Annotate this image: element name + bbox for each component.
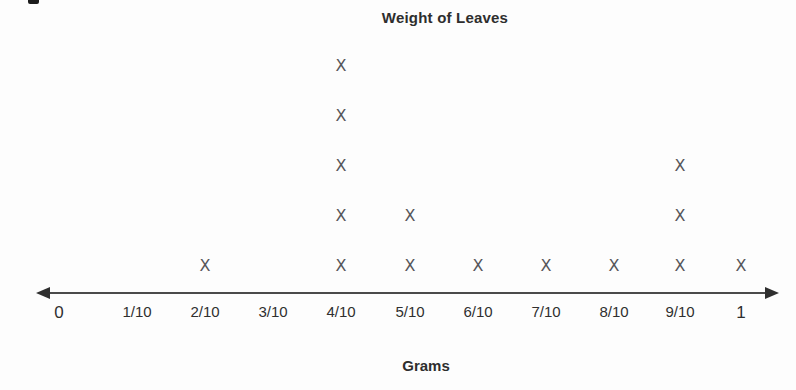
tick-label-9-10: 9/10 [665, 303, 694, 320]
tick-label-7-10: 7/10 [531, 303, 560, 320]
tick-label-3-10: 3/10 [258, 303, 287, 320]
data-marker-x-4-10-2: X [336, 208, 347, 224]
data-marker-x-7-10-1: X [541, 258, 552, 274]
tick-label-1: 1 [736, 303, 745, 323]
tick-label-0: 0 [54, 303, 63, 323]
data-marker-x-4-10-4: X [336, 108, 347, 124]
data-marker-x-4-10-5: X [336, 58, 347, 74]
data-marker-x-6-10-1: X [473, 258, 484, 274]
data-marker-x-4-10-3: X [336, 158, 347, 174]
data-marker-x-2-10-1: X [200, 258, 211, 274]
tick-label-1-10: 1/10 [122, 303, 151, 320]
scan-artifact-mark [28, 0, 39, 4]
data-marker-x-9-10-1: X [675, 258, 686, 274]
data-marker-x-8-10-1: X [609, 258, 620, 274]
tick-label-2-10: 2/10 [190, 303, 219, 320]
dot-plot-figure: Weight of Leaves 01/102/10X3/104/10XXXXX… [0, 0, 796, 390]
axis-right-arrow-icon [765, 287, 779, 299]
axis-left-arrow-icon [36, 287, 50, 299]
x-axis-label: Grams [402, 357, 450, 374]
data-marker-x-5-10-2: X [405, 208, 416, 224]
data-marker-x-1-1: X [736, 258, 747, 274]
data-marker-x-4-10-1: X [336, 258, 347, 274]
data-marker-x-5-10-1: X [405, 258, 416, 274]
tick-label-6-10: 6/10 [463, 303, 492, 320]
tick-label-5-10: 5/10 [395, 303, 424, 320]
tick-label-8-10: 8/10 [599, 303, 628, 320]
data-marker-x-9-10-3: X [675, 158, 686, 174]
tick-label-4-10: 4/10 [326, 303, 355, 320]
chart-title: Weight of Leaves [382, 9, 508, 26]
number-line-axis [45, 292, 770, 294]
data-marker-x-9-10-2: X [675, 208, 686, 224]
